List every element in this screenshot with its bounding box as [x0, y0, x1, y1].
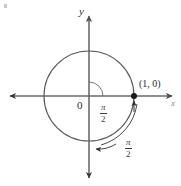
- inner-angle-arc: [89, 82, 103, 96]
- y-axis-label: y: [79, 6, 84, 17]
- inner-angle-numerator: π: [100, 103, 107, 112]
- figure-canvas: [0, 0, 181, 186]
- outer-arc-numerator: π: [125, 138, 132, 147]
- point-1-0-marker: [131, 93, 137, 99]
- outer-arc-denominator: 2: [125, 149, 132, 159]
- inner-angle-label: π 2: [100, 103, 107, 124]
- origin-label: 0: [77, 100, 83, 111]
- point-1-0-label: (1, 0): [139, 79, 161, 89]
- unit-circle-figure: y x 0 (1, 0) π 2 π 2: [0, 0, 181, 186]
- x-axis-label: x: [171, 99, 175, 108]
- outer-arc-label: π 2: [125, 138, 132, 159]
- sweep-arrowhead-end: [96, 144, 116, 149]
- inner-angle-denominator: 2: [100, 114, 107, 124]
